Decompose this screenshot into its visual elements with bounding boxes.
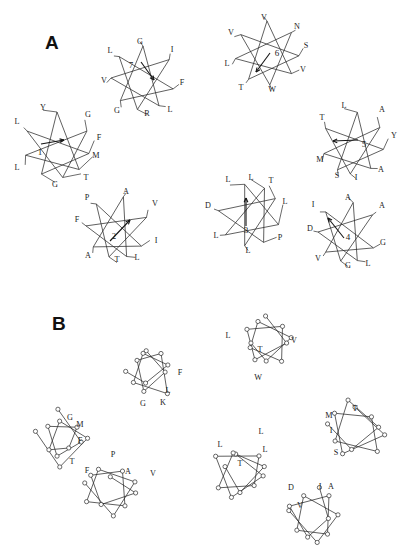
wheel-star-path (236, 21, 299, 85)
residue-node (248, 346, 252, 350)
backbone-segment (304, 496, 338, 515)
projection-b-right: MTIS (325, 398, 386, 457)
residue-spoke (214, 209, 218, 211)
residue-label-A: A (123, 187, 129, 196)
residue-label-R: R (144, 109, 150, 118)
projection-label-G: G (140, 399, 146, 408)
backbone-segment (289, 511, 317, 543)
figure-canvas: A B YGFMTGLL1GIFLRGVL7VNSVWTLV6LAYAISMT5… (0, 0, 406, 556)
residue-label-G: G (85, 110, 91, 119)
residue-label-G: G (137, 37, 143, 46)
residue-label-W: W (268, 85, 276, 94)
residue-label-P: P (278, 233, 283, 242)
residue-node (99, 502, 103, 506)
residue-node (349, 447, 353, 451)
residue-node (336, 513, 340, 517)
residue-node (253, 358, 257, 362)
residue-label-A: A (345, 193, 351, 202)
projection-label-F: F (78, 436, 83, 445)
residue-spoke (264, 237, 277, 242)
residue-spoke (82, 223, 86, 226)
residue-node (120, 469, 124, 473)
residue-spoke (357, 261, 365, 262)
residue-label-V: V (228, 28, 234, 37)
residue-node (111, 514, 115, 518)
residue-label-T: T (83, 173, 88, 182)
residue-label-G: G (345, 261, 351, 270)
panel-a-label: A (45, 32, 59, 54)
backbone-segment (319, 488, 328, 519)
residue-node (295, 528, 299, 532)
projection-label-A: A (125, 467, 131, 476)
residue-label-L: L (341, 101, 346, 110)
backbone-segment (49, 448, 69, 450)
backbone-segment (355, 407, 385, 435)
backbone-segment (240, 467, 264, 493)
residue-label-L: L (14, 117, 19, 126)
residue-node (306, 535, 310, 539)
wheel-number: 1 (38, 147, 43, 157)
helical-wheel-2: AVILTAFP2 (75, 187, 158, 264)
wheel-number: 2 (112, 231, 117, 241)
residue-node (133, 480, 137, 484)
residue-node (333, 439, 337, 443)
residue-spoke (85, 120, 87, 131)
residue-node (223, 465, 227, 469)
helical-wheel-3: LLTLPLLD3 (205, 173, 287, 255)
backbone-segment (101, 493, 135, 505)
residue-label-T: T (238, 83, 243, 92)
residue-node (315, 540, 319, 544)
residue-node (85, 436, 89, 440)
residue-label-V: V (152, 199, 158, 208)
residue-node (47, 448, 51, 452)
residue-node (262, 464, 266, 468)
residue-node (257, 454, 261, 458)
projection-label-L: L (165, 386, 170, 395)
residue-label-M: M (316, 155, 324, 164)
residue-node (143, 381, 147, 385)
projection-label-W: W (254, 373, 262, 382)
residue-spoke (79, 157, 92, 170)
residue-spoke (146, 210, 148, 218)
residue-label-A: A (379, 201, 385, 210)
projection-label-T: T (237, 459, 242, 468)
residue-node (56, 407, 60, 411)
projection-label-F: F (178, 368, 183, 377)
residue-spoke (269, 186, 275, 199)
residue-node (84, 500, 88, 504)
residue-spoke (377, 117, 380, 127)
residue-spoke (141, 240, 149, 246)
helical-wheel-figure: YGFMTGLL1GIFLRGVL7VNSVWTLV6LAYAISMT5AVIL… (0, 0, 406, 556)
residue-node (214, 454, 218, 458)
residue-label-D: D (307, 224, 313, 233)
residue-node (238, 490, 242, 494)
residue-spoke (373, 212, 377, 215)
projection-b-center: LLLT (214, 427, 268, 499)
projection-label-D: D (288, 483, 294, 492)
residue-node (245, 327, 249, 331)
backbone-segment (254, 456, 259, 486)
residue-label-G: G (52, 180, 58, 189)
residue-node (33, 429, 37, 433)
backbone-segment (85, 483, 114, 516)
wheel-star-path (324, 112, 383, 174)
residue-node (249, 341, 253, 345)
wheel-number: 4 (346, 232, 351, 242)
residue-label-L: L (134, 253, 139, 262)
residue-label-N: N (294, 22, 300, 31)
residue-spoke (169, 54, 170, 60)
residue-spoke (114, 56, 119, 57)
backbone-segment (258, 321, 291, 337)
wheel-star-path (26, 112, 89, 178)
residue-label-Y: Y (391, 131, 397, 140)
projection-label-M: M (76, 420, 84, 429)
residue-label-A: A (379, 105, 385, 114)
residue-label-V: V (315, 254, 321, 263)
wheel-star-path (86, 197, 147, 257)
residue-label-L: L (245, 246, 250, 255)
residue-node (263, 314, 267, 318)
residue-spoke (91, 203, 97, 204)
residue-spoke (93, 247, 94, 253)
residue-label-F: F (75, 215, 80, 224)
residue-label-L: L (167, 105, 172, 114)
